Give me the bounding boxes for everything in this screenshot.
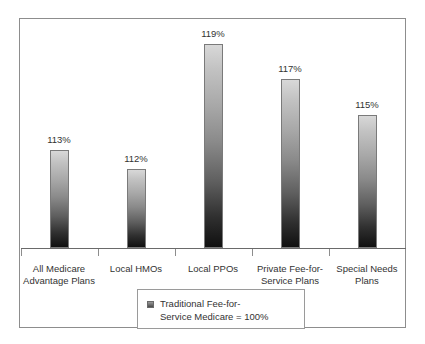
axis-tick (252, 249, 253, 256)
bar-private-fee-for-service-plans[interactable] (281, 79, 300, 248)
bar-local-hmos[interactable] (127, 169, 146, 248)
plot-area: 113% 112% 119% 117% 115% (20, 19, 407, 249)
bar-special-needs-plans[interactable] (358, 115, 377, 248)
chart-frame: 113% 112% 119% 117% 115% All MedicareAdv… (19, 18, 406, 328)
bar-value-label-2: 119% (190, 28, 236, 39)
bar-value-label-1: 112% (113, 153, 159, 164)
bar-value-label-4: 115% (344, 99, 390, 110)
axis-tick (405, 249, 406, 256)
legend: Traditional Fee-for-Service Medicare = 1… (137, 289, 305, 329)
axis-tick (329, 249, 330, 256)
category-label-local-hmos: Local HMOs (93, 263, 179, 275)
axis-tick (175, 249, 176, 256)
category-label-all-medicare-advantage-plans: All MedicareAdvantage Plans (16, 263, 102, 287)
bar-value-label-0: 113% (36, 134, 82, 145)
legend-swatch-icon (147, 301, 154, 308)
category-label-special-needs-plans: Special NeedsPlans (324, 263, 410, 287)
bar-local-ppos[interactable] (204, 44, 223, 248)
legend-entry-label: Traditional Fee-for-Service Medicare = 1… (160, 298, 269, 323)
bar-all-medicare-advantage-plans[interactable] (50, 150, 69, 248)
bar-value-label-3: 117% (267, 63, 313, 74)
category-label-local-ppos: Local PPOs (170, 263, 256, 275)
legend-entry: Traditional Fee-for-Service Medicare = 1… (147, 298, 269, 323)
axis-tick (98, 249, 99, 256)
x-axis-line (21, 248, 406, 249)
axis-tick (21, 249, 22, 256)
category-label-private-fee-for-service-plans: Private Fee-for-Service Plans (247, 263, 333, 287)
